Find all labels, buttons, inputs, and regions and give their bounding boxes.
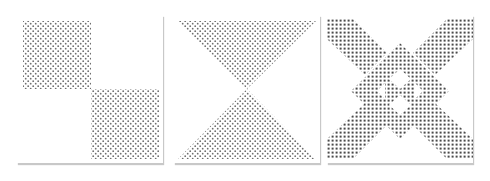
checkerboard-pattern-image	[17, 15, 163, 163]
hourglass-panel	[174, 15, 320, 163]
checkerboard-panel	[17, 15, 163, 163]
diamond-x-panel	[327, 15, 473, 163]
hourglass-pattern-image	[174, 15, 320, 163]
diamond-x-pattern-image	[327, 15, 473, 163]
